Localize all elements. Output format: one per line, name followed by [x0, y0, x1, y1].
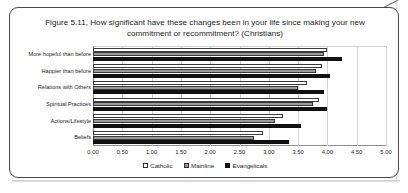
bar-mainline[interactable] — [93, 52, 324, 56]
bar-evangelicals[interactable] — [93, 124, 301, 128]
x-tick-label: 4.50 — [345, 149, 369, 155]
chart-legend: CatholicMainlineEvangelicals — [10, 162, 400, 169]
scan-shadow-artifact — [12, 180, 400, 183]
category-label: More hopeful than before — [28, 51, 91, 58]
x-tick-label: 3.50 — [286, 149, 310, 155]
bar-evangelicals[interactable] — [93, 57, 342, 61]
legend-swatch-icon — [225, 163, 230, 168]
x-tick-label: 2.50 — [228, 149, 252, 155]
legend-item-mainline[interactable]: Mainline — [184, 162, 215, 169]
x-tick-label: 4.00 — [315, 149, 339, 155]
bar-catholic[interactable] — [93, 48, 327, 52]
legend-swatch-icon — [184, 163, 189, 168]
legend-label: Evangelicals — [233, 162, 268, 169]
legend-item-catholic[interactable]: Catholic — [143, 162, 173, 169]
legend-swatch-icon — [143, 163, 148, 168]
legend-label: Mainline — [191, 162, 214, 169]
category-label: Actions/Lifestyle — [51, 118, 91, 125]
bar-mainline[interactable] — [93, 69, 316, 73]
bar-evangelicals[interactable] — [93, 140, 289, 144]
x-tick-label: 2.00 — [198, 149, 222, 155]
figure-frame: Figure 5.11, How significant have these … — [9, 7, 399, 178]
bar-mainline[interactable] — [93, 136, 254, 140]
category-label: Spiritual Practices — [46, 101, 91, 108]
category-axis-labels: More hopeful than beforeHappier than bef… — [16, 46, 91, 146]
x-tick-label: 0.50 — [110, 149, 134, 155]
legend-item-evangelicals[interactable]: Evangelicals — [225, 162, 267, 169]
chart-title: Figure 5.11, How significant have these … — [38, 17, 372, 39]
bar-mainline[interactable] — [93, 86, 298, 90]
bar-group — [93, 64, 386, 77]
bar-group — [93, 131, 386, 144]
legend-label: Catholic — [150, 162, 172, 169]
bar-evangelicals[interactable] — [93, 90, 324, 94]
bar-catholic[interactable] — [93, 81, 307, 85]
bar-group — [93, 98, 386, 111]
bar-group — [93, 114, 386, 127]
bar-evangelicals[interactable] — [93, 107, 327, 111]
x-tick-label: 5.00 — [374, 149, 398, 155]
category-label: Happier than before — [42, 68, 91, 75]
x-tick-label: 3.00 — [257, 149, 281, 155]
bar-evangelicals[interactable] — [93, 74, 330, 78]
bar-catholic[interactable] — [93, 98, 319, 102]
plot-area — [93, 46, 386, 146]
x-axis-tick-labels: 0.000.501.001.502.002.503.003.504.004.50… — [93, 149, 386, 159]
x-tick-label: 1.50 — [169, 149, 193, 155]
bar-catholic[interactable] — [93, 64, 322, 68]
gridline-5.00 — [386, 46, 387, 146]
bar-mainline[interactable] — [93, 119, 275, 123]
bar-catholic[interactable] — [93, 131, 263, 135]
bar-mainline[interactable] — [93, 102, 313, 106]
category-label: Relations with Others — [38, 84, 91, 91]
x-tick-label: 1.00 — [140, 149, 164, 155]
bar-group — [93, 48, 386, 61]
bar-catholic[interactable] — [93, 114, 283, 118]
bar-group — [93, 81, 386, 94]
category-label: Beliefs — [74, 134, 91, 141]
x-tick-label: 0.00 — [81, 149, 105, 155]
